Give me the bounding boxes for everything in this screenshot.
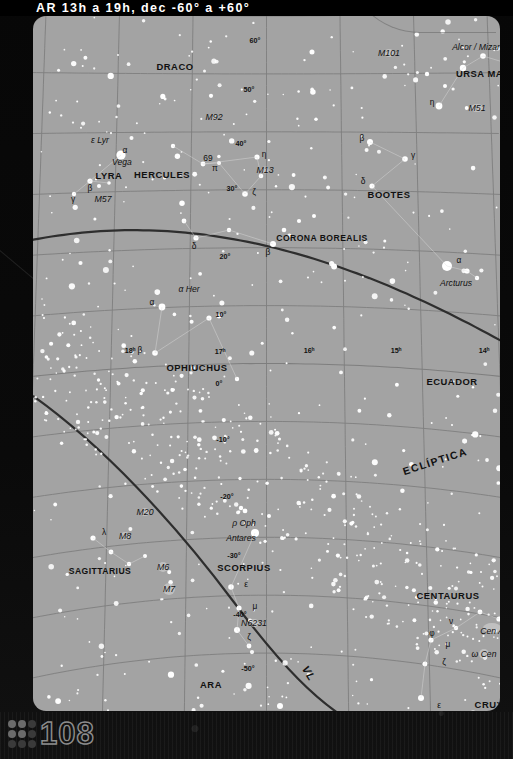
page-number: 108: [40, 716, 95, 752]
page-footer: 108: [8, 712, 95, 756]
star-chart-page: AR 13h a 19h, dec -60° a +60° DRACOURSA …: [0, 0, 513, 759]
chart-canvas: [33, 16, 500, 711]
sky-chart-panel[interactable]: DRACOURSA MAJORLYRAHERCULESBOOTESCORONA …: [33, 16, 500, 711]
dot-grid-decoration: [8, 720, 36, 748]
page-title: AR 13h a 19h, dec -60° a +60°: [36, 0, 250, 16]
